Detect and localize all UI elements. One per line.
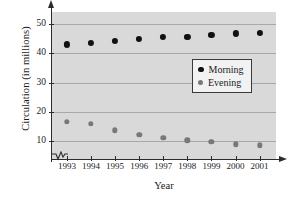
data-point-evening bbox=[112, 127, 117, 132]
y-tick-label: 20 bbox=[20, 106, 46, 116]
data-point-morning bbox=[184, 34, 190, 40]
data-point-evening bbox=[88, 121, 93, 126]
y-tick-label: 10 bbox=[20, 135, 46, 145]
y-axis-arrow-icon bbox=[48, 0, 54, 8]
x-axis-title: Year bbox=[52, 180, 276, 191]
data-point-morning bbox=[232, 30, 238, 36]
y-axis-line bbox=[51, 6, 52, 162]
legend-marker-evening-icon bbox=[198, 80, 203, 85]
data-point-morning bbox=[88, 40, 94, 46]
legend-marker-morning-icon bbox=[198, 67, 204, 73]
data-point-evening bbox=[136, 132, 141, 137]
gridline-y bbox=[52, 112, 276, 113]
data-point-evening bbox=[209, 139, 214, 144]
data-point-evening bbox=[233, 142, 238, 147]
axis-break-icon bbox=[52, 151, 68, 161]
legend-item-evening: Evening bbox=[198, 76, 244, 89]
legend-label-morning: Morning bbox=[209, 64, 244, 75]
gridline-y bbox=[52, 141, 276, 142]
data-point-morning bbox=[160, 34, 166, 40]
data-point-evening bbox=[161, 135, 166, 140]
data-point-morning bbox=[208, 32, 214, 38]
legend-item-morning: Morning bbox=[198, 63, 244, 76]
x-axis-arrow-icon bbox=[279, 156, 287, 162]
gridline-y bbox=[52, 53, 276, 54]
data-point-evening bbox=[257, 142, 262, 147]
legend-label-evening: Evening bbox=[208, 77, 241, 88]
x-axis-line bbox=[51, 159, 280, 160]
legend: Morning Evening bbox=[192, 59, 252, 93]
gridline-y bbox=[52, 24, 276, 25]
y-tick-label: 50 bbox=[20, 18, 46, 28]
chart-figure: Circulation (in millions) Year 102030405… bbox=[0, 0, 295, 201]
data-point-morning bbox=[64, 41, 70, 47]
data-point-evening bbox=[64, 119, 69, 124]
x-tick-label: 2001 bbox=[245, 161, 275, 171]
y-tick-label: 40 bbox=[20, 47, 46, 57]
y-tick-label: 30 bbox=[20, 77, 46, 87]
data-point-morning bbox=[257, 30, 263, 36]
data-point-morning bbox=[136, 36, 142, 42]
data-point-morning bbox=[112, 38, 118, 44]
